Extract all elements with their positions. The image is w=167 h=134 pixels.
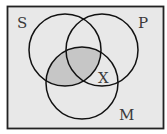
label-s: S (17, 14, 27, 32)
label-m: M (119, 106, 134, 124)
venn-diagram: S P M X (0, 0, 167, 134)
label-p: P (138, 14, 148, 32)
label-x: X (98, 69, 109, 87)
